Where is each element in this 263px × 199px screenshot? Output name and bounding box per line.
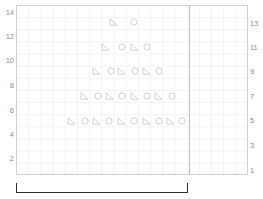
circle-marker: [118, 92, 126, 100]
circle-marker: [130, 117, 138, 125]
left-value-axis-tick: 12: [0, 32, 14, 41]
right-value-axis-tick: 9: [250, 67, 263, 76]
left-value-axis-tick: 2: [0, 154, 14, 163]
scatter-chart-figure: 1412108642 131197531: [0, 0, 263, 199]
right-value-axis-tick: 5: [250, 116, 263, 125]
circle-marker: [178, 117, 186, 125]
right-value-axis-tick: 3: [250, 141, 263, 150]
circle-marker: [155, 117, 163, 125]
circle-marker: [94, 92, 102, 100]
right-value-axis-tick: 7: [250, 92, 263, 101]
right-value-axis-tick: 1: [250, 166, 263, 175]
left-value-axis-tick: 4: [0, 130, 14, 139]
circle-marker: [131, 67, 139, 75]
circle-marker: [155, 67, 163, 75]
triangle-marker: [154, 92, 163, 100]
triangle-marker: [92, 117, 101, 125]
plot-gridlines: [17, 6, 247, 174]
vertical-divider-line: [189, 6, 190, 174]
right-value-axis-tick: 13: [250, 19, 263, 28]
circle-marker: [105, 117, 113, 125]
plot-area: [16, 5, 248, 175]
left-value-axis-tick: 10: [0, 56, 14, 65]
left-value-axis-tick: 6: [0, 106, 14, 115]
triangle-marker: [80, 92, 89, 100]
triangle-marker: [117, 67, 126, 75]
circle-marker: [81, 117, 89, 125]
triangle-marker: [109, 18, 118, 26]
triangle-marker: [142, 67, 151, 75]
triangle-marker: [117, 117, 126, 125]
left-value-axis-tick: 8: [0, 81, 14, 90]
right-value-axis-tick: 11: [250, 43, 263, 52]
triangle-marker: [130, 43, 139, 51]
triangle-marker: [142, 117, 151, 125]
left-value-axis-tick: 14: [0, 8, 14, 17]
triangle-marker: [166, 117, 175, 125]
circle-marker: [130, 18, 138, 26]
circle-marker: [143, 43, 151, 51]
triangle-marker: [130, 92, 139, 100]
circle-marker: [143, 92, 151, 100]
range-bracket: [16, 183, 188, 193]
triangle-marker: [105, 92, 114, 100]
circle-marker: [118, 43, 126, 51]
triangle-marker: [67, 117, 76, 125]
triangle-marker: [92, 67, 101, 75]
circle-marker: [168, 92, 176, 100]
circle-marker: [107, 67, 115, 75]
triangle-marker: [101, 43, 110, 51]
